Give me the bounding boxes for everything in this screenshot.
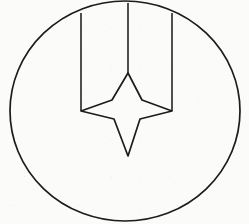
four-pointed-star — [81, 73, 172, 156]
drawing-canvas: Line drawing: four-pointed star within a… — [0, 0, 249, 224]
line-drawing — [0, 0, 249, 224]
outer-circle — [10, 1, 240, 221]
